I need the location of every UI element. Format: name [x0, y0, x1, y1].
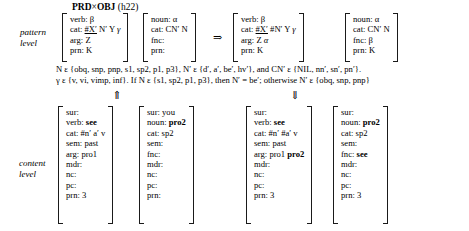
row-prn: prn: 3	[341, 190, 380, 200]
rule-title-prd: PRD	[72, 2, 92, 12]
row-sem: sem: past	[254, 138, 304, 148]
row-arg-value: Z	[85, 35, 90, 45]
row-prn: prn:	[151, 45, 188, 55]
row-noun: noun: α	[151, 14, 188, 24]
bracket-right	[307, 106, 312, 224]
bracket-right	[383, 106, 388, 224]
content-level-label-line2: level	[19, 169, 46, 180]
content-output-verb-matrix: sur: verb: see cat: #n′ #a′ v sem: past …	[246, 106, 312, 224]
bracket-right	[299, 13, 304, 62]
row-verb-value: β	[90, 14, 94, 24]
row-arg-value: pro1 pro2	[269, 149, 304, 159]
row-cat-value: #X′ #N′ Y γ	[256, 24, 296, 34]
row-prn: prn: K	[70, 45, 120, 55]
row-sem-value: past	[272, 138, 286, 148]
row-cat: cat: #X′ N′ Y γ	[70, 24, 120, 34]
constraint-line-1: N ε {obq, snp, pnp, s1, sp2, p1, p3}, N′…	[56, 64, 361, 75]
row-cat-value: sp2	[356, 128, 368, 138]
bracket-right	[191, 13, 196, 62]
row-pc: pc:	[66, 180, 105, 190]
row-mdr: mdr:	[147, 159, 186, 169]
row-noun-value: pro2	[169, 117, 186, 127]
row-arg: arg: Z	[70, 35, 120, 45]
row-mdr: mdr:	[254, 159, 304, 169]
row-verb-value: β	[261, 14, 265, 24]
rule-title: PRD×OBJ (h22)	[72, 2, 138, 13]
row-prn-value: 3	[82, 190, 86, 200]
row-fnc: fnc:	[147, 149, 186, 159]
pattern-output-verb-matrix: verb: β cat: #X′ #N′ Y γ arg: Z α prn: K	[233, 13, 304, 62]
down-arrow: ⇓	[288, 90, 302, 101]
up-arrow: ⇑	[110, 90, 124, 101]
pattern-input-verb-matrix: verb: β cat: #X′ N′ Y γ arg: Z prn: K	[62, 13, 128, 62]
row-verb: verb: β	[70, 14, 120, 24]
row-sur: sur:	[341, 107, 380, 117]
rule-figure: PRD×OBJ (h22) pattern level verb: β cat:…	[0, 0, 469, 231]
row-prn: prn: K	[241, 45, 296, 55]
row-arg-value: pro1	[81, 149, 97, 159]
row-sem-value: past	[84, 138, 98, 148]
row-verb: verb: see	[254, 117, 304, 127]
row-mdr: mdr:	[66, 159, 105, 169]
row-noun: noun: pro2	[147, 117, 186, 127]
row-prn-value: K	[86, 45, 92, 55]
row-pc: pc:	[341, 180, 380, 190]
row-verb-value: see	[86, 117, 97, 127]
content-input-verb-matrix: sur: verb: see cat: #n′ a′ v sem: past a…	[58, 106, 113, 224]
pattern-output-noun-matrix: noun: α cat: CN′ N fnc: β prn: K	[345, 13, 398, 62]
row-prn: prn: 3	[254, 190, 304, 200]
row-pc: pc:	[147, 180, 186, 190]
content-input-noun-matrix: sur: you noun: pro2 cat: sp2 sem: fnc: m…	[139, 106, 194, 224]
row-sem: sem:	[341, 138, 380, 148]
row-prn-value: K	[369, 45, 375, 55]
bracket-right	[189, 106, 194, 224]
row-nc: nc:	[341, 169, 380, 179]
rule-implication-arrow: ⇒	[213, 32, 222, 43]
row-arg: arg: pro1 pro2	[254, 149, 304, 159]
row-sem: sem: past	[66, 138, 105, 148]
row-fnc: fnc: see	[341, 149, 380, 159]
row-nc: nc:	[66, 169, 105, 179]
row-prn-value: 3	[357, 190, 361, 200]
bracket-right	[393, 13, 398, 62]
row-sur-value: you	[162, 107, 175, 117]
row-cat: cat: sp2	[147, 128, 186, 138]
content-level-label-line1: content	[19, 158, 46, 169]
row-prn: prn:	[147, 190, 186, 200]
row-pc: pc:	[254, 180, 304, 190]
pattern-level-label-line2: level	[20, 38, 46, 49]
row-prn-value: K	[257, 45, 263, 55]
row-cat: cat: sp2	[341, 128, 380, 138]
content-output-noun-matrix: sur: noun: pro2 cat: sp2 sem: fnc: see m…	[333, 106, 388, 224]
row-cat-value: #X′ N′ Y γ	[85, 24, 121, 34]
row-cat-value: #n′ a′ v	[81, 128, 106, 138]
row-sur: sur: you	[147, 107, 186, 117]
row-cat-value: CN′ N	[368, 24, 390, 34]
row-cat: cat: CN′ N	[151, 24, 188, 34]
row-nc: nc:	[147, 169, 186, 179]
row-fnc: fnc: β	[353, 35, 390, 45]
row-prn: prn: 3	[66, 190, 105, 200]
row-cat-value: #n′ #a′ v	[269, 128, 298, 138]
row-noun: noun: α	[353, 14, 390, 24]
row-cat-value: CN′ N	[166, 24, 188, 34]
row-arg: arg: Z α	[241, 35, 296, 45]
row-verb: verb: β	[241, 14, 296, 24]
bracket-right	[123, 13, 128, 62]
row-verb-value: see	[274, 117, 285, 127]
row-sur: sur:	[66, 107, 105, 117]
row-fnc: fnc:	[151, 35, 188, 45]
row-fnc-value: see	[357, 149, 368, 159]
constraint-line-2: γ ε {v, vi, vimp, inf}. If N ε {s1, sp2,…	[56, 75, 370, 86]
row-sur: sur:	[254, 107, 304, 117]
row-cat: cat: #n′ #a′ v	[254, 128, 304, 138]
pattern-input-noun-matrix: noun: α cat: CN′ N fnc: prn:	[143, 13, 196, 62]
row-cat: cat: #X′ #N′ Y γ	[241, 24, 296, 34]
row-cat: cat: CN′ N	[353, 24, 390, 34]
row-noun-value: α	[375, 14, 380, 24]
bracket-right	[108, 106, 113, 224]
pattern-level-label-line1: pattern	[20, 27, 46, 38]
row-nc: nc:	[254, 169, 304, 179]
row-prn: prn: K	[353, 45, 390, 55]
row-verb: verb: see	[66, 117, 105, 127]
